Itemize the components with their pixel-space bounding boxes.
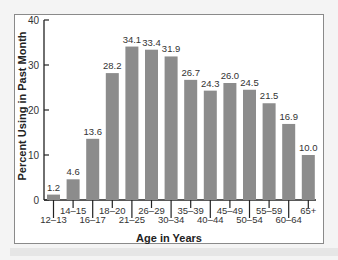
bar-value-label: 26.7 [181, 67, 200, 78]
bar [125, 47, 138, 200]
y-tick-label: 40 [28, 15, 40, 26]
bar [67, 179, 80, 200]
y-tick-label: 30 [28, 60, 40, 71]
bar-value-label: 4.6 [66, 166, 79, 177]
bar [86, 139, 99, 200]
bar-value-label: 28.2 [103, 60, 122, 71]
bar [282, 124, 295, 200]
bar [302, 155, 315, 200]
bar-value-label: 16.9 [279, 111, 298, 122]
y-axis-label: Percent Using in Past Month [16, 26, 28, 186]
y-tick-label: 10 [28, 150, 40, 161]
bar-value-label: 34.1 [123, 34, 142, 45]
bar [145, 50, 158, 200]
bar-value-label: 10.0 [299, 142, 318, 153]
bar [204, 91, 217, 200]
bar-value-label: 24.3 [201, 78, 220, 89]
bar-value-label: 13.6 [83, 126, 102, 137]
bar-value-label: 26.0 [221, 70, 240, 81]
bar-value-label: 24.5 [240, 77, 259, 88]
bar-value-label: 1.2 [47, 182, 60, 193]
x-tick-label: 65+ [300, 205, 317, 216]
bar [243, 90, 256, 200]
bar [184, 80, 197, 200]
bar-value-label: 21.5 [260, 90, 279, 101]
bar-value-label: 33.4 [142, 37, 161, 48]
y-tick-label: 0 [33, 195, 39, 206]
bar [106, 73, 119, 200]
y-tick-label: 20 [28, 105, 40, 116]
bar [263, 103, 276, 200]
bar-chart: 0102030401.212–134.614–1513.616–1728.218… [0, 0, 338, 260]
x-axis-label: Age in Years [14, 232, 324, 244]
bar [47, 195, 60, 200]
bar [165, 56, 178, 200]
bar [223, 83, 236, 200]
x-tick-label: 60–64 [275, 214, 301, 225]
bar-value-label: 31.9 [162, 43, 181, 54]
